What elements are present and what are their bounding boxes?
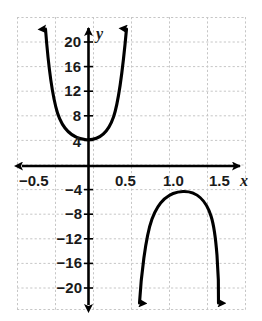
y-tick-label-20: 20	[64, 33, 81, 50]
x-tick-label-10: 1.0	[163, 172, 184, 189]
x-tick-label-neg05: −0.5	[19, 172, 49, 189]
y-tick-label-8: 8	[73, 107, 81, 124]
y-tick-label-4: 4	[73, 133, 82, 150]
y-axis-label: y	[94, 25, 104, 43]
y-tick-label-16: 16	[64, 58, 81, 75]
y-tick-label-neg8: −8	[65, 205, 82, 222]
y-tick-label-neg4: −4	[65, 181, 83, 198]
coordinate-plane: 20 16 12 8 4 −4 −8 −12 −16 −20 −0.5 0.5 …	[0, 0, 262, 321]
y-tick-label-neg16: −16	[57, 254, 82, 271]
x-axis-label: x	[239, 172, 248, 189]
graph-figure: 20 16 12 8 4 −4 −8 −12 −16 −20 −0.5 0.5 …	[0, 0, 262, 321]
y-tick-label-neg20: −20	[57, 279, 82, 296]
y-tick-label-12: 12	[64, 82, 81, 99]
x-tick-label-15: 1.5	[209, 172, 230, 189]
y-tick-label-neg12: −12	[57, 230, 82, 247]
x-tick-label-05: 0.5	[115, 172, 136, 189]
